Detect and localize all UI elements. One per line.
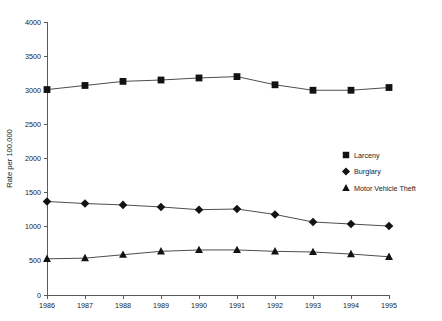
legend-item-label: Burglary (354, 167, 381, 176)
marker-square (348, 87, 355, 94)
x-tick-label: 1992 (267, 301, 283, 310)
y-axis-title-text: Rate per 100,000 (5, 129, 14, 188)
legend-item-larceny[interactable]: Larceny (343, 151, 380, 160)
x-axis: 1986198719881989199019911992199319941995 (39, 295, 397, 310)
marker-diamond (271, 210, 280, 219)
series-line (47, 77, 389, 91)
y-tick-label: 1500 (25, 188, 41, 197)
marker-diamond (309, 218, 318, 227)
y-tick-label: 500 (29, 256, 41, 265)
legend-item-burglary[interactable]: Burglary (342, 167, 381, 176)
series-line (47, 201, 389, 226)
y-tick-label: 0 (37, 291, 41, 300)
marker-diamond (81, 199, 90, 208)
marker-square (158, 77, 165, 84)
marker-square (196, 75, 203, 82)
y-tick-label: 2500 (25, 120, 41, 129)
series-line (47, 250, 389, 259)
marker-triangle (271, 247, 279, 254)
marker-diamond (195, 205, 204, 214)
series-burglary (43, 197, 394, 230)
x-tick-label: 1993 (305, 301, 321, 310)
marker-square (82, 82, 89, 89)
x-tick-label: 1988 (115, 301, 131, 310)
y-tick-label: 4000 (25, 18, 41, 27)
marker-diamond (385, 222, 394, 231)
marker-triangle (195, 246, 203, 253)
legend-item-label: Larceny (354, 151, 380, 160)
marker-square (386, 84, 393, 91)
y-tick-label: 1000 (25, 222, 41, 231)
series-container (43, 73, 394, 262)
marker-triangle (342, 184, 350, 191)
marker-diamond (233, 205, 242, 214)
y-tick-label: 3000 (25, 86, 41, 95)
marker-square (234, 73, 241, 80)
marker-square (44, 86, 51, 93)
marker-diamond (157, 203, 166, 212)
marker-diamond (342, 167, 350, 175)
marker-diamond (347, 220, 356, 229)
x-tick-label: 1987 (77, 301, 93, 310)
x-tick-label: 1990 (191, 301, 207, 310)
legend-item-motor-vehicle-theft[interactable]: Motor Vehicle Theft (342, 184, 416, 193)
marker-triangle (309, 248, 317, 255)
marker-square (343, 152, 349, 158)
y-tick-label: 2000 (25, 154, 41, 163)
crime-rate-line-chart: 05001000150020002500300035004000 1986198… (0, 0, 442, 321)
x-tick-label: 1994 (343, 301, 359, 310)
legend-item-label: Motor Vehicle Theft (354, 184, 416, 193)
x-tick-label: 1989 (153, 301, 169, 310)
marker-triangle (157, 247, 165, 254)
marker-square (120, 78, 127, 85)
chart-plot-area: 05001000150020002500300035004000 1986198… (0, 0, 442, 321)
x-tick-label: 1995 (381, 301, 397, 310)
marker-square (310, 87, 317, 94)
chart-legend: LarcenyBurglaryMotor Vehicle Theft (342, 151, 416, 193)
y-tick-label: 3500 (25, 52, 41, 61)
marker-triangle (43, 255, 51, 262)
x-tick-label: 1991 (229, 301, 245, 310)
series-larceny (44, 73, 393, 93)
y-axis-title: Rate per 100,000 (5, 129, 14, 188)
marker-square (272, 81, 279, 88)
marker-diamond (43, 197, 52, 206)
y-axis: 05001000150020002500300035004000 (25, 18, 47, 300)
marker-diamond (119, 201, 128, 210)
marker-triangle (233, 246, 241, 253)
x-tick-label: 1986 (39, 301, 55, 310)
series-motor-vehicle-theft (43, 246, 393, 262)
